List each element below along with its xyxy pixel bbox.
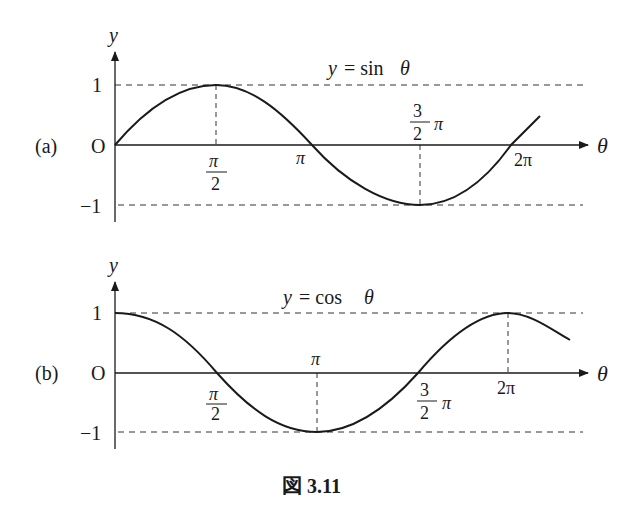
x-tick-three-half-pi-num: 3 (420, 380, 429, 400)
x-axis-label: θ (597, 361, 608, 386)
x-tick-pi: π (311, 349, 321, 369)
x-tick-three-half-pi-pi: π (434, 114, 444, 134)
x-tick-half-pi-den: 2 (211, 404, 220, 424)
trig-figure: y 1 −1 O (a) π 2 π 3 2 π 2π θ y = sin θ (0, 0, 633, 511)
figure-caption: 図 3.11 (282, 475, 341, 497)
x-tick-three-half-pi-den: 2 (420, 403, 429, 423)
svg-text:θ: θ (400, 57, 410, 79)
x-tick-2pi: 2π (497, 378, 515, 398)
x-tick-half-pi-num: π (209, 151, 219, 171)
x-tick-three-half-pi-den: 2 (413, 124, 422, 144)
svg-text:y: y (281, 286, 292, 309)
panel-label-a: (a) (35, 135, 57, 158)
y-tick-1: 1 (92, 74, 102, 96)
x-tick-half-pi-num: π (209, 384, 219, 404)
chart-title-a: y = sin θ (326, 57, 410, 80)
svg-text:θ: θ (364, 286, 374, 308)
x-axis-label: θ (597, 133, 608, 158)
y-tick-minus-1: −1 (80, 422, 101, 444)
panel-b-cos: y 1 −1 O (b) π 2 π 3 2 π 2π θ y = cos θ (35, 254, 608, 449)
x-tick-pi: π (296, 148, 306, 168)
svg-text:= cos: = cos (299, 286, 342, 308)
x-tick-three-half-pi-num: 3 (413, 101, 422, 121)
y-tick-minus-1: −1 (80, 195, 101, 217)
y-tick-1: 1 (92, 302, 102, 324)
panel-label-b: (b) (35, 362, 58, 385)
chart-title-b: y = cos θ (281, 286, 374, 309)
svg-text:y: y (326, 57, 337, 80)
origin-label: O (91, 135, 105, 157)
y-axis-label: y (107, 254, 118, 277)
panel-a-sin: y 1 −1 O (a) π 2 π 3 2 π 2π θ y = sin θ (35, 24, 608, 222)
x-tick-2pi: 2π (514, 150, 532, 170)
svg-text:= sin: = sin (344, 57, 384, 79)
x-tick-three-half-pi-pi: π (442, 393, 452, 413)
x-tick-half-pi-den: 2 (211, 174, 220, 194)
origin-label: O (91, 362, 105, 384)
y-axis-label: y (107, 24, 118, 47)
